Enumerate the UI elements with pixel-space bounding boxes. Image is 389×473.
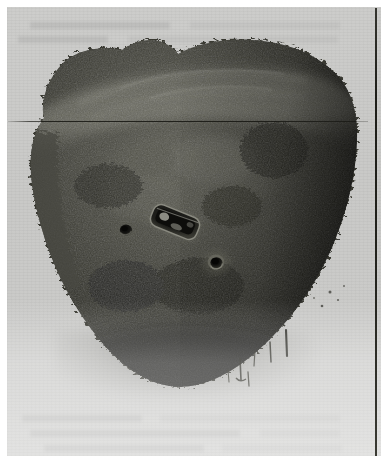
- ghost-text-row: [44, 445, 204, 452]
- ghost-text-row: [30, 22, 170, 29]
- plate-alt-text: Black and white photograph of a dark, he…: [0, 0, 1, 1]
- ghost-text-row: [18, 36, 108, 43]
- ghost-text-row: [22, 415, 142, 422]
- photographic-plate-page: Black and white photograph of a dark, he…: [0, 0, 389, 473]
- ghost-text-row: [30, 430, 240, 437]
- ghost-text-row: [260, 430, 340, 437]
- ghost-text-row: [160, 415, 340, 422]
- ghost-text-row: [222, 445, 342, 452]
- plate-background: [7, 7, 381, 456]
- ghost-text-row: [128, 36, 338, 43]
- right-edge-rule: [375, 8, 377, 456]
- upper-hairline: [8, 121, 368, 122]
- plate-caption: [0, 0, 1, 1]
- ghost-text-row: [190, 22, 340, 29]
